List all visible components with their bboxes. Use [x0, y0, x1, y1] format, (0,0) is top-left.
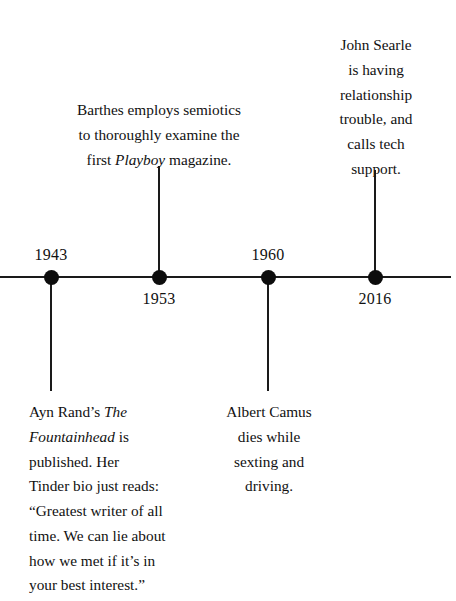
timeline-axis	[0, 276, 451, 278]
year-label-1953: 1953	[143, 291, 176, 307]
stem-2016	[374, 170, 376, 277]
italic-title: Playboy	[115, 151, 165, 168]
note-1943: Ayn Rand’s TheFountainhead ispublished. …	[29, 400, 179, 598]
stem-1943	[50, 277, 52, 391]
year-label-1960: 1960	[252, 247, 285, 263]
italic-title: The	[104, 403, 127, 420]
timeline-diagram: Barthes employs semioticsto thoroughly e…	[0, 0, 456, 601]
node-dot-1943[interactable]	[44, 270, 59, 285]
node-dot-1960[interactable]	[261, 270, 276, 285]
note-1960: Albert Camusdies whilesexting anddriving…	[199, 400, 339, 499]
stem-1960	[267, 277, 269, 391]
stem-1953	[158, 166, 160, 277]
year-label-1943: 1943	[35, 247, 68, 263]
note-1953: Barthes employs semioticsto thoroughly e…	[34, 98, 284, 172]
note-2016: John Searleis havingrelationshiptrouble,…	[311, 33, 441, 182]
year-label-2016: 2016	[359, 291, 392, 307]
node-dot-1953[interactable]	[152, 270, 167, 285]
node-dot-2016[interactable]	[368, 270, 383, 285]
italic-title: Fountainhead	[29, 428, 115, 445]
